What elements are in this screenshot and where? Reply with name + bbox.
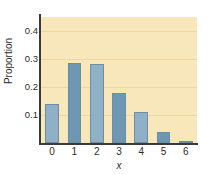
x-tick-label: 6 bbox=[176, 146, 196, 157]
y-axis-tick-labels: 0.10.20.30.4 bbox=[8, 0, 38, 175]
x-tick-label: 2 bbox=[87, 146, 107, 157]
x-tick-label: 1 bbox=[64, 146, 84, 157]
x-axis-line bbox=[39, 143, 198, 145]
x-tick-label: 5 bbox=[154, 146, 174, 157]
y-tick-label: 0.3 bbox=[12, 53, 38, 64]
y-tick-label: 0.1 bbox=[12, 109, 38, 120]
x-axis-tick-labels: 0123456 bbox=[41, 146, 197, 161]
y-tick-label: 0.4 bbox=[12, 25, 38, 36]
gridline bbox=[41, 31, 197, 32]
gridline bbox=[41, 87, 197, 88]
bar bbox=[45, 104, 59, 143]
x-tick-label: 0 bbox=[42, 146, 62, 157]
x-tick-label: 3 bbox=[109, 146, 129, 157]
bar bbox=[90, 64, 104, 143]
bar bbox=[157, 132, 171, 143]
y-tick-label: 0.2 bbox=[12, 81, 38, 92]
x-axis-title: x bbox=[41, 160, 197, 171]
bar bbox=[134, 112, 148, 143]
bar bbox=[68, 63, 82, 143]
y-axis-line bbox=[39, 14, 41, 145]
plot-inner bbox=[41, 17, 197, 143]
x-tick-label: 4 bbox=[131, 146, 151, 157]
gridline bbox=[41, 59, 197, 60]
bar bbox=[112, 93, 126, 143]
plot-area bbox=[41, 17, 197, 143]
bar-chart-figure: Proportion 0.10.20.30.4 0123456 x bbox=[0, 0, 209, 175]
